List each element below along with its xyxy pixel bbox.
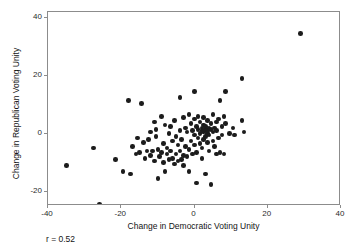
data-point [150,149,155,154]
data-point [163,123,168,128]
data-point [128,172,133,177]
data-point [185,130,190,135]
y-tick-mark [44,133,47,134]
data-point [159,114,164,119]
data-point [170,139,175,144]
data-point [194,181,199,186]
data-point [218,98,223,103]
x-tick-mark [194,205,195,208]
x-tick-mark [340,205,341,208]
data-point [231,126,236,131]
data-point [139,101,144,106]
data-point [227,131,232,136]
data-point [203,172,208,177]
data-point [157,154,162,159]
x-tick-label: 20 [251,209,283,219]
data-point [192,89,197,94]
data-point [222,114,227,119]
y-tick-label: 40 [14,12,42,21]
data-point [152,159,157,164]
data-point [176,143,181,148]
data-point [156,176,161,181]
data-point [174,134,179,139]
data-point [126,98,131,103]
data-point [181,163,186,168]
data-point [64,163,69,168]
data-point [185,154,190,159]
data-point [154,134,159,139]
data-point [189,121,194,126]
data-point [179,137,184,142]
data-point [161,160,166,165]
data-point [196,136,201,141]
data-points-layer [48,12,339,204]
data-point [223,121,228,126]
x-tick-label: -40 [31,209,63,219]
data-point [146,137,151,142]
x-tick-mark [120,205,121,208]
data-point [194,150,199,155]
data-point [178,95,183,100]
data-point [167,131,172,136]
data-point [148,153,153,158]
data-point [222,152,227,157]
data-point [130,144,135,149]
data-point [152,120,157,125]
data-point [137,150,142,155]
y-tick-mark [44,191,47,192]
x-tick-label: 0 [178,209,210,219]
data-point [170,156,175,161]
data-point [240,118,245,123]
data-point [113,157,118,162]
data-point [154,127,159,132]
data-point [220,133,225,138]
y-axis-label: Change in Republican Voting Unity [11,34,22,194]
x-axis-label: Change in Democratic Voting Unity [47,221,340,232]
data-point [298,31,303,36]
data-point [143,156,148,161]
data-point [216,117,221,122]
y-tick-mark [44,75,47,76]
data-point [181,115,186,120]
data-point [121,169,126,174]
plot-area [47,11,340,205]
correlation-annotation: r = 0.52 [46,234,75,245]
data-point [135,136,140,141]
data-point [97,202,102,204]
data-point [207,149,212,154]
data-point [209,182,214,187]
data-point [200,146,205,151]
data-point [148,130,153,135]
data-point [179,157,184,162]
data-point [168,124,173,129]
data-point [168,149,173,154]
y-tick-mark [44,17,47,18]
data-point [211,139,216,144]
data-point [178,128,183,133]
data-point [196,114,201,119]
data-point [223,89,228,94]
x-tick-mark [47,205,48,208]
scatter-plot-figure: -40-2002040 -2002040 Change in Democrati… [0,0,354,249]
data-point [187,169,192,174]
data-point [141,140,146,145]
data-point [214,128,219,133]
data-point [200,156,205,161]
x-tick-mark [267,205,268,208]
data-point [211,112,216,117]
data-point [91,146,96,151]
data-point [240,76,245,81]
data-point [242,130,247,135]
data-point [192,143,197,148]
data-point [232,133,237,138]
data-point [159,150,164,155]
data-point [187,112,192,117]
data-point [205,140,210,145]
data-point [163,169,168,174]
data-point [212,144,217,149]
data-point [172,118,177,123]
x-tick-label: -20 [104,209,136,219]
x-tick-label: 40 [324,209,354,219]
